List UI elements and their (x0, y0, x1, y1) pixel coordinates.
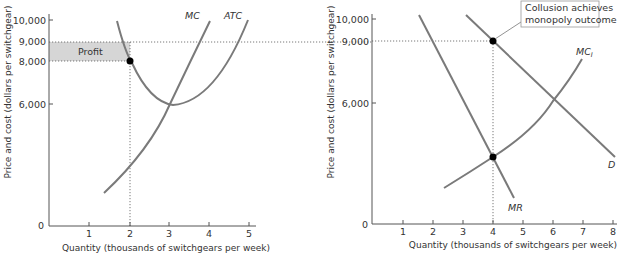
x-tick-5: 5 (520, 226, 526, 237)
demand-curve (466, 15, 615, 157)
x-tick-2: 2 (430, 226, 436, 237)
y-tick-6000: 6,000 (342, 98, 369, 109)
mc-industry-curve (444, 59, 582, 188)
right-panel: 10,000 9,000 6,000 0 1 2 3 4 5 6 7 8 Qua… (326, 1, 617, 250)
mr-label: MR (508, 202, 523, 213)
callout-line-2: monopoly outcome (525, 14, 617, 25)
y-tick-9000: 9,000 (19, 36, 46, 47)
x-tick-8: 8 (610, 226, 616, 237)
right-x-axis-title: Quantity (thousands of switchgears per w… (409, 240, 617, 250)
x-tick-3: 3 (460, 226, 466, 237)
y-tick-6000: 6,000 (19, 99, 46, 110)
equilibrium-point (127, 58, 134, 65)
mc-industry-label: MCI (576, 46, 593, 59)
x-tick-6: 6 (550, 226, 556, 237)
callout-leader (495, 22, 521, 39)
callout-line-1: Collusion achieves (525, 2, 613, 13)
x-tick-1: 1 (400, 226, 406, 237)
chart-canvas: Profit 10,000 9,000 8,000 6,000 0 1 2 3 … (0, 0, 619, 262)
profit-label: Profit (78, 46, 103, 57)
left-y-axis-title: Price and cost (dollars per switchgear) (3, 5, 13, 178)
atc-curve (117, 20, 248, 105)
origin-label: 0 (362, 219, 368, 230)
origin-label: 0 (38, 220, 44, 231)
demand-label: D (608, 159, 615, 170)
mr-mc-intersection-point (490, 154, 497, 161)
left-x-ticks: 1 2 3 4 5 (86, 222, 252, 239)
x-tick-2: 2 (127, 228, 133, 239)
right-x-ticks: 1 2 3 4 5 6 7 8 (400, 220, 616, 237)
x-tick-4: 4 (206, 228, 212, 239)
left-x-axis-title: Quantity (thousands of switchgears per w… (62, 243, 270, 253)
x-tick-4: 4 (490, 226, 496, 237)
x-tick-1: 1 (86, 228, 92, 239)
x-tick-7: 7 (580, 226, 586, 237)
left-panel: Profit 10,000 9,000 8,000 6,000 0 1 2 3 … (3, 5, 372, 253)
right-y-axis-title: Price and cost (dollars per switchgear) (326, 5, 336, 178)
mc-label: MC (185, 10, 200, 21)
x-tick-5: 5 (246, 228, 252, 239)
mr-curve (419, 15, 514, 198)
y-tick-9000: 9,000 (342, 36, 369, 47)
y-tick-8000: 8,000 (19, 56, 46, 67)
y-tick-10000: 10,000 (336, 14, 369, 25)
atc-label: ATC (223, 10, 243, 21)
y-tick-10000: 10,000 (13, 15, 46, 26)
x-tick-3: 3 (166, 228, 172, 239)
